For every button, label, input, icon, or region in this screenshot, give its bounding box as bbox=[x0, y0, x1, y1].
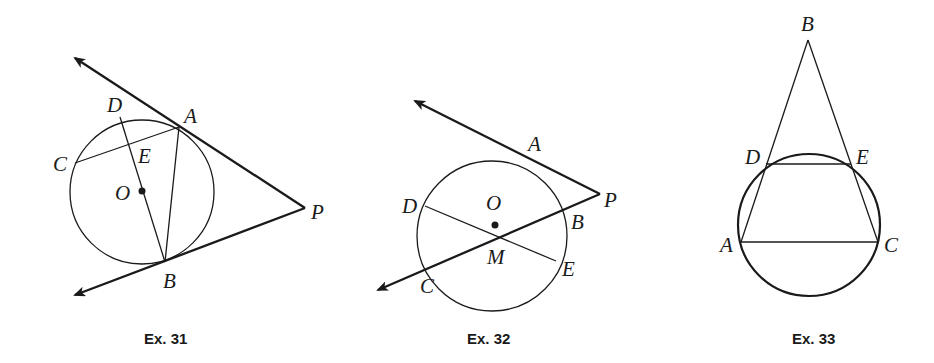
label-c: C bbox=[884, 233, 899, 257]
label-d: D bbox=[401, 194, 417, 218]
center-dot-o bbox=[492, 222, 499, 229]
label-o: O bbox=[486, 191, 501, 215]
caption-ex-31: Ex. 31 bbox=[144, 330, 187, 347]
label-m: M bbox=[486, 245, 506, 269]
label-d: D bbox=[744, 145, 760, 169]
label-p: P bbox=[310, 200, 324, 224]
exercise-31-diagram: D A C E O P B Ex. 31 bbox=[53, 58, 324, 347]
side-bc bbox=[808, 40, 878, 242]
chord-ca bbox=[75, 127, 179, 163]
label-e: E bbox=[137, 144, 151, 168]
label-a: A bbox=[526, 132, 541, 156]
chord-ab bbox=[165, 127, 179, 262]
exercise-32-diagram: A O P D B M E C Ex. 32 bbox=[378, 101, 617, 347]
circle-o bbox=[417, 161, 567, 311]
label-a: A bbox=[718, 233, 733, 257]
label-b: B bbox=[571, 210, 584, 234]
caption-ex-32: Ex. 32 bbox=[467, 330, 510, 347]
circle bbox=[738, 154, 880, 296]
label-e: E bbox=[561, 257, 575, 281]
label-b: B bbox=[801, 12, 814, 36]
label-a: A bbox=[182, 104, 197, 128]
tangent-line-pb bbox=[75, 208, 305, 295]
label-p: P bbox=[603, 188, 617, 212]
label-b: B bbox=[163, 269, 176, 293]
exercise-33-diagram: B D E A C Ex. 33 bbox=[718, 12, 899, 347]
label-o: O bbox=[115, 181, 130, 205]
center-dot-o bbox=[139, 188, 146, 195]
side-ba bbox=[741, 40, 808, 242]
label-c: C bbox=[53, 152, 68, 176]
label-d: D bbox=[106, 93, 122, 117]
label-c: C bbox=[420, 274, 435, 298]
geometry-figures: D A C E O P B Ex. 31 A O P D B M E C Ex.… bbox=[0, 0, 934, 363]
tangent-line-pa bbox=[75, 58, 305, 208]
caption-ex-33: Ex. 33 bbox=[792, 330, 835, 347]
label-e: E bbox=[855, 145, 869, 169]
